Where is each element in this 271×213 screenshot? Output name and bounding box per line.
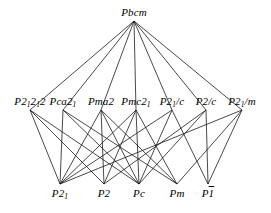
- lattice-edge: [101, 110, 177, 184]
- lattice-edge: [206, 110, 208, 184]
- lattice-edge: [139, 110, 206, 184]
- node-label-P2_1_m: P21/m: [228, 96, 255, 107]
- lattice-edge: [60, 110, 63, 184]
- lattice-edge: [136, 110, 177, 184]
- lattice-edge: [63, 110, 139, 184]
- node-label-P2_12_12: P21212: [14, 96, 45, 107]
- lattice-edge: [208, 110, 242, 184]
- node-label-Pbcm: Pbcm: [121, 7, 146, 18]
- node-label-P-1: P1: [202, 188, 214, 199]
- node-label-Pmc2_1: Pmc21: [121, 96, 150, 107]
- node-label-Pc: Pc: [133, 188, 145, 199]
- node-label-P2_1_c: P21/c: [160, 96, 184, 107]
- lattice-edge: [104, 110, 136, 184]
- node-label-Pm: Pm: [170, 188, 185, 199]
- node-label-P2_c: P2/c: [196, 96, 217, 107]
- node-label-P2: P2: [98, 188, 110, 199]
- lattice-edge: [60, 110, 136, 184]
- lattice-edge: [60, 110, 242, 184]
- lattice-edge: [30, 110, 139, 184]
- subgroup-lattice-diagram: PbcmP21212Pca21Pma2Pmc21P21/cP2/cP21/mP2…: [0, 0, 271, 213]
- lattice-edge: [172, 110, 208, 184]
- lattice-edge: [30, 110, 104, 184]
- lattice-edge: [30, 110, 60, 184]
- lattice-edge: [177, 110, 242, 184]
- node-label-P2_1: P21: [52, 188, 68, 199]
- node-label-Pma2: Pma2: [88, 96, 114, 107]
- node-label-Pca2_1: Pca21: [50, 96, 77, 107]
